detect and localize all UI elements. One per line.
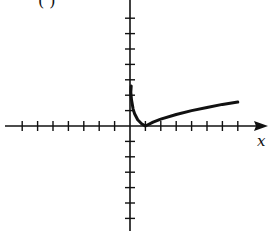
x-axis-label: x (257, 132, 266, 150)
graph: x (0, 0, 269, 231)
x-axis-arrow-icon (254, 121, 268, 131)
function-curve (131, 86, 238, 126)
